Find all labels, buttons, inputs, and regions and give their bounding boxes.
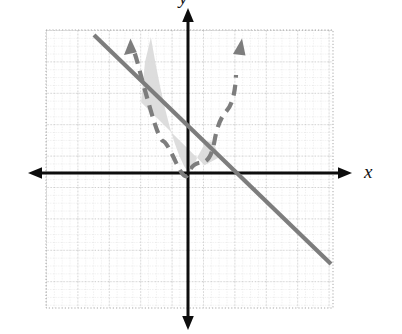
x-axis-arrow-right — [338, 167, 352, 179]
y-axis-arrow-down — [182, 316, 194, 330]
y-axis-label: y — [179, 0, 187, 7]
coordinate-plane — [0, 0, 402, 334]
y-axis-arrow-up — [182, 8, 194, 22]
x-axis-arrow-left — [28, 167, 42, 179]
x-axis-label: x — [364, 162, 372, 181]
graph-figure: x y — [0, 0, 402, 334]
